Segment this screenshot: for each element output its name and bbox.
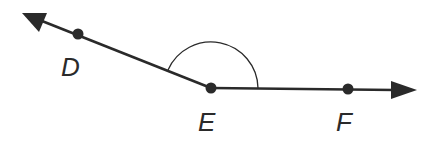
point-E xyxy=(206,83,217,94)
point-D xyxy=(73,29,84,40)
angle-arc xyxy=(168,42,258,88)
label-E: E xyxy=(198,107,216,137)
label-D: D xyxy=(61,52,80,82)
arrowhead-F-icon xyxy=(391,81,417,99)
point-F xyxy=(343,84,354,95)
angle-diagram: D E F xyxy=(0,0,445,147)
label-F: F xyxy=(336,107,354,137)
ray-EF xyxy=(211,88,395,90)
